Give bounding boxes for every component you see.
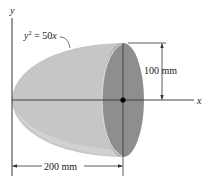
equation-leader — [60, 37, 70, 48]
paraboloid-diagram: y x y2 = 50x 100 mm 200 mm — [0, 0, 208, 190]
dim-radius-arrow-top — [160, 43, 163, 48]
dim-length-arrow-right — [118, 164, 123, 167]
dim-radius-arrow-bottom — [160, 95, 163, 100]
dimension-radius-label: 100 mm — [144, 65, 177, 76]
dim-length-arrow-left — [12, 164, 17, 167]
dimension-length-label: 200 mm — [44, 161, 77, 172]
equation-label: y2 = 50x — [23, 29, 57, 41]
equation-rhs: = 50 — [32, 30, 53, 41]
x-axis-label: x — [196, 95, 202, 106]
center-point — [120, 97, 125, 102]
y-axis-label: y — [9, 5, 15, 16]
equation-var: x — [51, 30, 57, 41]
